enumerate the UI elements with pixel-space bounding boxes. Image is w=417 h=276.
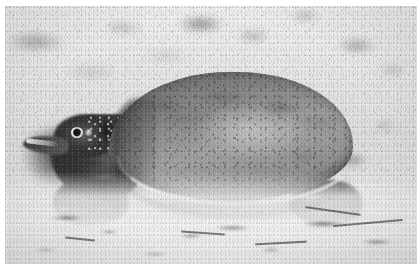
foreground-debris bbox=[5, 6, 417, 264]
photograph-image bbox=[5, 6, 417, 264]
photograph-frame bbox=[0, 0, 417, 276]
